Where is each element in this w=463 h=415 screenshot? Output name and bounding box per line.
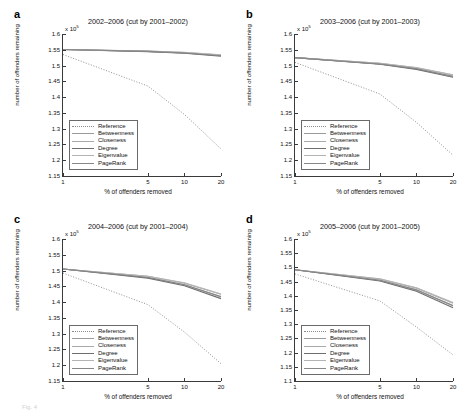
- legend-item-eigenvalue: Eigenvalue: [304, 152, 366, 159]
- legend-item-closeness: Closeness: [72, 342, 134, 349]
- x-tick-label: 20: [450, 179, 457, 185]
- y-tick-mark: [63, 129, 66, 130]
- y-tick-mark: [63, 50, 66, 51]
- legend-label: Eigenvalue: [98, 357, 128, 364]
- legend-swatch-icon: [304, 163, 326, 164]
- y-tick-mark: [295, 239, 298, 240]
- legend-label: Degree: [330, 145, 350, 152]
- legend-swatch-icon: [304, 353, 326, 354]
- y-tick-label: 1.45: [48, 283, 60, 289]
- y-tick-label: 1.5: [284, 264, 292, 270]
- legend-swatch-icon: [304, 360, 326, 361]
- y-tick-label: 1.55: [48, 252, 60, 258]
- series-line-eigenvalue: [295, 270, 453, 303]
- y-tick-label: 1.2: [284, 350, 292, 356]
- x-tick-mark: [148, 173, 149, 176]
- y-tick-mark: [295, 267, 298, 268]
- legend-item-closeness: Closeness: [72, 137, 134, 144]
- y-tick-mark: [295, 310, 298, 311]
- x-tick-label: 5: [378, 384, 381, 390]
- y-tick-mark: [63, 334, 66, 335]
- y-tick-mark: [295, 144, 298, 145]
- y-tick-mark: [63, 239, 66, 240]
- y-tick-label: 1.15: [280, 173, 292, 179]
- legend-item-pagerank: PageRank: [304, 160, 366, 167]
- series-line-closeness: [295, 270, 453, 304]
- legend-swatch-icon: [304, 148, 326, 149]
- legend-swatch-icon: [304, 331, 326, 332]
- chart-panel-d: d 2005–2006 (cut by 2001–2005) number of…: [232, 205, 463, 412]
- figure-caption: Fig. 4: [22, 404, 37, 410]
- legend-a: ReferenceBetweennessClosenessDegreeEigen…: [69, 120, 138, 170]
- legend-swatch-icon: [72, 360, 94, 361]
- y-tick-label: 1.15: [48, 173, 60, 179]
- x-tick-mark: [295, 173, 296, 176]
- legend-label: Betweenness: [330, 130, 366, 137]
- y-tick-label: 1.6: [284, 236, 292, 242]
- y-tick-mark: [63, 365, 66, 366]
- y-tick-label: 1.3: [284, 321, 292, 327]
- x-tick-label: 10: [413, 384, 420, 390]
- x-tick-label: 1: [61, 384, 64, 390]
- y-tick-label: 1.3: [52, 331, 60, 337]
- y-tick-mark: [63, 160, 66, 161]
- legend-swatch-icon: [72, 338, 94, 339]
- legend-label: Reference: [98, 123, 126, 130]
- x-tick-label: 20: [450, 384, 457, 390]
- y-axis-exponent: x 105: [297, 229, 311, 237]
- legend-item-betweenness: Betweenness: [72, 130, 134, 137]
- y-axis-label: number of offenders remaining: [246, 215, 252, 325]
- y-tick-mark: [63, 66, 66, 67]
- y-axis-exponent: x 105: [65, 229, 79, 237]
- x-tick-mark: [221, 173, 222, 176]
- y-tick-label: 1.5: [52, 63, 60, 69]
- x-tick-label: 10: [413, 179, 420, 185]
- y-tick-mark: [63, 381, 66, 382]
- y-tick-mark: [295, 66, 298, 67]
- y-tick-label: 1.6: [284, 31, 292, 37]
- x-tick-label: 10: [181, 384, 188, 390]
- x-tick-mark: [453, 173, 454, 176]
- plot-area-d: x 105 ReferenceBetweennessClosenessDegre…: [294, 239, 453, 382]
- legend-item-eigenvalue: Eigenvalue: [72, 357, 134, 364]
- y-tick-mark: [295, 50, 298, 51]
- y-tick-label: 1.3: [52, 126, 60, 132]
- y-tick-mark: [295, 367, 298, 368]
- legend-label: Betweenness: [98, 130, 134, 137]
- x-tick-mark: [184, 173, 185, 176]
- legend-c: ReferenceBetweennessClosenessDegreeEigen…: [69, 325, 138, 375]
- y-axis-label: number of offenders remaining: [14, 10, 20, 120]
- y-tick-label: 1.45: [280, 279, 292, 285]
- x-tick-mark: [184, 378, 185, 381]
- y-tick-label: 1.35: [48, 315, 60, 321]
- y-tick-label: 1.6: [52, 31, 60, 37]
- y-tick-label: 1.3: [284, 126, 292, 132]
- legend-label: Degree: [98, 350, 118, 357]
- y-tick-label: 1.5: [52, 268, 60, 274]
- legend-label: Degree: [98, 145, 118, 152]
- legend-label: Eigenvalue: [98, 152, 128, 159]
- x-axis-label: % of offenders removed: [284, 188, 456, 195]
- legend-swatch-icon: [72, 368, 94, 369]
- y-tick-label: 1.35: [280, 110, 292, 116]
- y-tick-label: 1.45: [280, 78, 292, 84]
- y-tick-mark: [295, 129, 298, 130]
- y-tick-label: 1.4: [284, 94, 292, 100]
- series-line-pagerank: [63, 269, 221, 296]
- y-tick-label: 1.15: [280, 364, 292, 370]
- legend-swatch-icon: [304, 338, 326, 339]
- y-tick-mark: [63, 271, 66, 272]
- x-axis-label: % of offenders removed: [52, 393, 224, 400]
- series-line-pagerank: [295, 270, 453, 306]
- y-tick-label: 1.45: [48, 78, 60, 84]
- y-tick-mark: [63, 302, 66, 303]
- y-tick-mark: [295, 324, 298, 325]
- legend-item-betweenness: Betweenness: [304, 335, 366, 342]
- legend-d: ReferenceBetweennessClosenessDegreeEigen…: [301, 325, 370, 375]
- legend-item-pagerank: PageRank: [304, 365, 366, 372]
- y-tick-mark: [295, 160, 298, 161]
- y-tick-mark: [295, 353, 298, 354]
- legend-label: Closeness: [330, 137, 358, 144]
- legend-swatch-icon: [304, 126, 326, 127]
- y-tick-mark: [63, 144, 66, 145]
